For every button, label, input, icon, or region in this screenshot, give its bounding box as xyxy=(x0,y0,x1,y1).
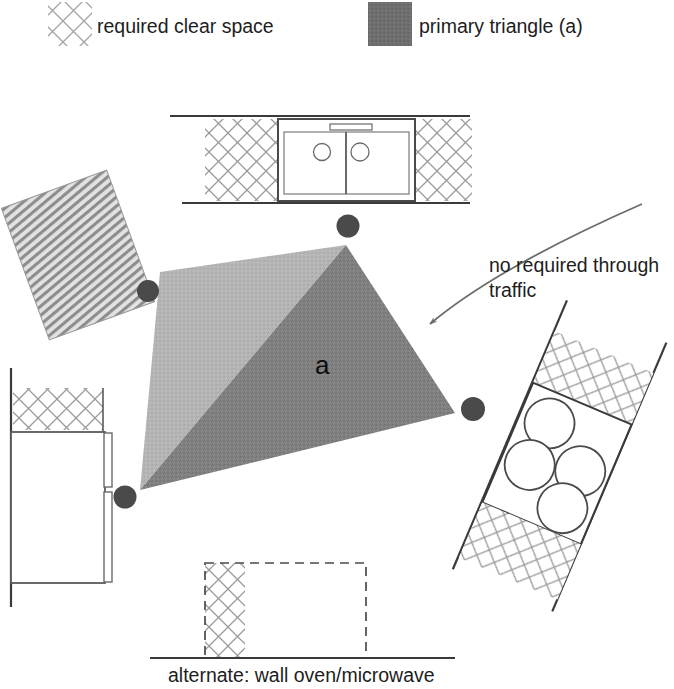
sink-drain-right-icon xyxy=(351,143,369,161)
sink-marker xyxy=(337,215,360,238)
legend-label-primary-triangle: primary triangle (a) xyxy=(419,15,583,37)
refrigerator xyxy=(11,368,112,607)
dishwasher xyxy=(1,170,154,340)
sink-clear-space-left xyxy=(205,119,278,201)
refrigerator-door-upper xyxy=(104,433,112,487)
dishwasher-marker xyxy=(137,280,159,302)
sink-clear-space-right xyxy=(414,119,472,201)
primary-triangle-label: a xyxy=(315,350,330,380)
kitchen-work-triangle-diagram: required clear space primary triangle (a… xyxy=(0,0,674,689)
legend-item-primary-triangle: primary triangle (a) xyxy=(368,2,583,46)
wall-oven-alternate: alternate: wall oven/microwave xyxy=(150,563,455,686)
legend-item-required-clear-space: required clear space xyxy=(48,2,274,46)
through-traffic-label-line1: no required through xyxy=(489,254,659,276)
refrigerator-marker xyxy=(114,486,137,509)
cooktop xyxy=(453,300,667,611)
solid-fill-swatch-icon xyxy=(368,2,412,46)
wall-oven-clear-space xyxy=(205,563,245,658)
cooktop-marker xyxy=(461,397,485,421)
crosshatch-swatch-icon xyxy=(48,2,92,46)
sink-drain-left-icon xyxy=(314,144,331,161)
sink-counter-run xyxy=(170,116,472,203)
through-traffic-annotation: no required through traffic xyxy=(430,204,659,324)
refrigerator-clear-space xyxy=(13,388,103,430)
faucet-icon xyxy=(330,124,372,130)
through-traffic-label-line2: traffic xyxy=(489,279,537,301)
legend-label-required-clear-space: required clear space xyxy=(97,15,274,37)
dishwasher-body xyxy=(1,170,154,340)
refrigerator-body xyxy=(11,432,105,583)
legend: required clear space primary triangle (a… xyxy=(48,2,583,46)
work-triangle-group: a xyxy=(140,245,455,490)
wall-oven-caption: alternate: wall oven/microwave xyxy=(168,664,435,686)
diagram-canvas: required clear space primary triangle (a… xyxy=(0,0,674,689)
refrigerator-door-lower xyxy=(104,492,112,582)
